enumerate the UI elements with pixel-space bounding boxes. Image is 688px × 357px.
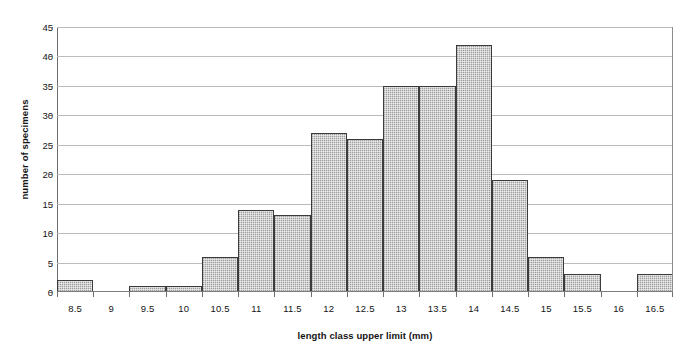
bar-slot	[492, 27, 528, 292]
bar-slot	[129, 27, 165, 292]
bar-13.5	[419, 86, 455, 292]
x-axis-tick-label: 16.5	[637, 303, 673, 319]
bar-16.5	[637, 274, 673, 292]
x-axis-title: length class upper limit (mm)	[57, 330, 673, 341]
x-axis-tick-mark	[274, 292, 275, 297]
x-axis-tick-mark	[202, 292, 203, 297]
y-axis-tick-label: 20	[19, 169, 53, 180]
x-axis-tick-cell	[129, 292, 165, 300]
x-axis-tick-label: 11	[238, 303, 274, 319]
x-axis-tick-label: 14.5	[492, 303, 528, 319]
bar-slot	[57, 27, 93, 292]
x-axis-tick-mark	[564, 292, 565, 297]
bar-slot	[347, 27, 383, 292]
x-axis-tick-cell	[601, 292, 637, 300]
bar-slot	[383, 27, 419, 292]
x-axis-tick-mark	[492, 292, 493, 297]
y-axis-tick-mark	[49, 86, 53, 87]
x-axis-tick-label: 15	[528, 303, 564, 319]
bar-13	[383, 86, 419, 292]
y-axis-tick-label: 35	[19, 80, 53, 91]
bar-slot	[528, 27, 564, 292]
bar-slot	[637, 27, 673, 292]
x-axis-tick-label: 9.5	[129, 303, 165, 319]
x-axis-tick-label: 10	[166, 303, 202, 319]
x-axis-tick-cell	[383, 292, 419, 300]
plot-area	[57, 27, 673, 292]
y-axis-tick-mark	[49, 56, 53, 57]
y-axis-tick-mark	[49, 263, 53, 264]
bar-15	[528, 257, 564, 292]
x-axis-tick-cell	[311, 292, 347, 300]
y-axis-tick-label: 0	[19, 287, 53, 298]
y-axis-tick-label: 30	[19, 110, 53, 121]
x-axis-tick-label: 10.5	[202, 303, 238, 319]
x-axis-tick-label: 11.5	[274, 303, 310, 319]
bar-slot	[564, 27, 600, 292]
bar-8.5	[57, 280, 93, 292]
bar-14.5	[492, 180, 528, 292]
x-axis-tick-mark	[93, 292, 94, 297]
x-axis-tick-label: 13.5	[419, 303, 455, 319]
x-axis-tick-cell	[564, 292, 600, 300]
y-axis-tick-mark	[49, 27, 53, 28]
y-axis-tick-label: 10	[19, 228, 53, 239]
x-axis-tick-mark	[238, 292, 239, 297]
x-axis-tick-marks	[57, 292, 673, 300]
x-axis-tick-label: 13	[383, 303, 419, 319]
x-axis-tick-mark	[456, 292, 457, 297]
y-axis-tick-label: 45	[19, 22, 53, 33]
x-axis-tick-label: 12	[311, 303, 347, 319]
x-axis-tick-cell	[274, 292, 310, 300]
x-axis-tick-label: 16	[601, 303, 637, 319]
x-axis-tick-label: 15.5	[564, 303, 600, 319]
x-axis-tick-mark	[601, 292, 602, 297]
y-axis-tick-mark	[49, 204, 53, 205]
bar-12	[311, 133, 347, 292]
y-axis-tick-label: 5	[19, 257, 53, 268]
bar-12.5	[347, 139, 383, 292]
bar-slot	[601, 27, 637, 292]
x-axis-tick-cell	[347, 292, 383, 300]
x-axis-tick-mark	[419, 292, 420, 297]
histogram-chart: number of specimens 051015202530354045 8…	[0, 0, 688, 357]
y-axis-tick-labels: 051015202530354045	[13, 27, 53, 292]
bar-11.5	[274, 215, 310, 292]
y-axis-tick-mark	[49, 233, 53, 234]
x-axis-tick-label: 9	[93, 303, 129, 319]
x-axis-tick-mark	[311, 292, 312, 297]
x-axis-tick-cell	[166, 292, 202, 300]
x-axis-tick-label: 14	[456, 303, 492, 319]
y-axis-tick-mark	[49, 292, 53, 293]
bar-slot	[202, 27, 238, 292]
bar-slot	[238, 27, 274, 292]
bar-slot	[274, 27, 310, 292]
y-axis-tick-mark	[49, 115, 53, 116]
x-axis-tick-cell	[492, 292, 528, 300]
y-axis-tick-label: 40	[19, 51, 53, 62]
x-axis-tick-mark	[637, 292, 638, 297]
x-axis-tick-mark	[672, 292, 673, 297]
bar-14	[456, 45, 492, 292]
x-axis-tick-mark	[383, 292, 384, 297]
x-axis-tick-label: 12.5	[347, 303, 383, 319]
bar-11	[238, 210, 274, 292]
bar-slot	[456, 27, 492, 292]
x-axis-tick-cell	[419, 292, 455, 300]
x-axis-tick-mark	[57, 292, 58, 297]
bar-slot	[93, 27, 129, 292]
x-axis-tick-mark	[528, 292, 529, 297]
x-axis-tick-cell	[57, 292, 93, 300]
x-axis-tick-cell	[456, 292, 492, 300]
x-axis-tick-label: 8.5	[57, 303, 93, 319]
y-axis-tick-label: 15	[19, 198, 53, 209]
x-axis-tick-mark	[347, 292, 348, 297]
x-axis-tick-cell	[637, 292, 673, 300]
x-axis-tick-cell	[202, 292, 238, 300]
bar-slot	[419, 27, 455, 292]
x-axis-tick-mark	[129, 292, 130, 297]
x-axis-tick-mark	[166, 292, 167, 297]
bar-slot	[166, 27, 202, 292]
x-axis-tick-cell	[238, 292, 274, 300]
y-axis-tick-label: 25	[19, 139, 53, 150]
